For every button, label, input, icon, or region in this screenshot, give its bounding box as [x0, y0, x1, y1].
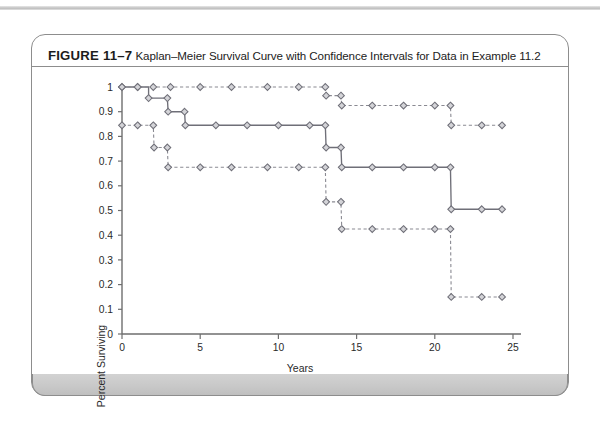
caption-divider [32, 66, 568, 67]
figure-caption-text: Kaplan–Meier Survival Curve with Confide… [135, 49, 540, 62]
page-top-rule-thin [0, 9, 600, 10]
figure-caption: FIGURE 11–7 Kaplan–Meier Survival Curve … [48, 48, 558, 63]
figure-footer-band [32, 374, 568, 396]
figure-container [31, 34, 569, 396]
y-axis-label-wrap: Percent Surviving [72, 170, 96, 250]
figure-number: FIGURE 11–7 [48, 48, 132, 63]
x-axis-label: Years [0, 362, 600, 374]
